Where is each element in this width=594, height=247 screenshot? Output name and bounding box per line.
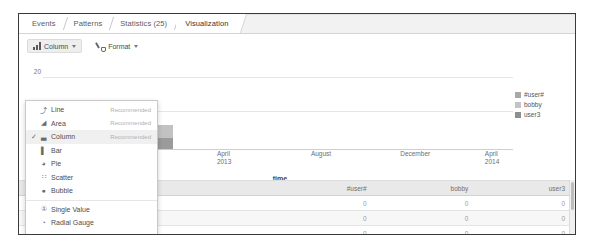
check-icon: ✓ [30,133,38,141]
scatter-plot-icon: ∷ [38,173,49,181]
radial-gauge-icon: ◔ [38,219,49,226]
menu-item-label: Area [49,120,110,127]
tab-visualization[interactable]: Visualization [176,14,237,33]
chevron-down-icon [72,45,76,48]
single-value-icon: ① [38,205,49,213]
scrollbar-thumb[interactable] [571,182,574,210]
legend-swatch [515,112,521,118]
menu-item-pie[interactable]: ◕ Pie [26,157,157,171]
chevron-down-icon [134,45,138,48]
menu-item-note: Recommended [110,134,151,140]
legend-item[interactable]: bobby [515,101,567,108]
cell-bobby: 0 [377,211,479,226]
menu-item-note: Recommended [110,120,151,126]
tab-events[interactable]: Events [23,14,65,33]
cell-user: 0 [275,226,377,236]
tab-visualization-label: Visualization [185,19,228,28]
menu-item-area[interactable]: ◢ Area Recommended [26,117,157,131]
area-chart-icon: ◢ [38,119,49,127]
tab-patterns[interactable]: Patterns [65,14,112,33]
menu-item-scatter[interactable]: ∷ Scatter [26,171,157,185]
menu-item-radial-gauge[interactable]: ◔ Radial Gauge [26,216,157,230]
menu-item-note: Recommended [110,107,151,113]
visualization-panel: Events Patterns Statistics (25) Visualiz… [18,13,576,235]
legend-item[interactable]: #user# [515,91,567,98]
menu-item-label: Scatter [49,174,151,181]
menu-item-label: Radial Gauge [49,219,151,226]
menu-item-label: Line [49,106,110,113]
x-tick-label: August [311,150,331,158]
menu-item-label: Column [49,133,110,140]
chart-legend: #user# bobby user3 [515,91,567,121]
cell-user: 0 [275,196,377,211]
legend-label: #user# [524,91,544,98]
tab-patterns-label: Patterns [74,19,103,28]
menu-item-label: Single Value [49,206,151,213]
format-label: Format [108,43,130,50]
chart-type-menu: ⤴ Line Recommended ◢ Area Recommended ✓ … [25,100,158,235]
cell-bobby: 0 [377,196,479,211]
tab-statistics[interactable]: Statistics (25) [111,14,176,33]
column-chart-icon [33,42,41,50]
y-tick-label: 20 [34,68,41,75]
menu-item-label: Bubble [49,187,151,194]
pie-chart-icon: ◕ [38,160,49,167]
menu-item-column[interactable]: ✓ ▃ Column Recommended [26,130,157,144]
bubble-chart-icon: ● [38,187,49,194]
x-tick-label: December [400,150,430,158]
menu-item-bar[interactable]: ▌ Bar [26,144,157,158]
column-header-user[interactable]: #user# [275,181,377,196]
menu-item-label: Pie [49,160,151,167]
menu-item-bubble[interactable]: ● Bubble [26,184,157,198]
format-button[interactable]: Format [92,40,143,52]
legend-item[interactable]: user3 [515,111,567,118]
column-header-bobby[interactable]: bobby [377,181,479,196]
filler-gauge-icon: ↕ [38,233,49,235]
x-tick-label: April 2013 [217,150,231,166]
tab-statistics-label: Statistics (25) [120,19,167,28]
cell-user: 0 [275,211,377,226]
legend-swatch [515,92,521,98]
tab-events-label: Events [32,19,56,28]
menu-divider [26,200,157,201]
x-tick-label: April 2014 [485,150,499,166]
bar-chart-icon: ▌ [38,147,49,154]
vertical-scrollbar[interactable] [569,180,575,235]
column-chart-icon: ▃ [38,133,49,141]
gridline [43,77,513,78]
menu-item-label: Bar [49,147,151,154]
cell-user3: 0 [478,196,575,211]
visualization-body: 20 10 December April 2013 [19,58,575,235]
legend-label: user3 [524,111,540,118]
paintbrush-icon [97,42,105,50]
tab-strip: Events Patterns Statistics (25) Visualiz… [19,14,575,34]
cell-bobby: 0 [377,226,479,236]
legend-swatch [515,102,521,108]
chart-type-label: Column [44,43,68,50]
menu-item-line[interactable]: ⤴ Line Recommended [26,103,157,117]
cell-user3: 0 [478,226,575,236]
legend-label: bobby [524,101,542,108]
menu-item-label: Filler Gauge [49,233,151,235]
menu-item-single-value[interactable]: ① Single Value [26,203,157,217]
line-chart-icon: ⤴ [38,105,49,115]
chart-type-button[interactable]: Column [27,39,82,53]
tab-strip-filler [240,14,576,33]
column-header-user3[interactable]: user3 [478,181,575,196]
menu-item-filler-gauge[interactable]: ↕ Filler Gauge [26,230,157,236]
cell-user3: 0 [478,211,575,226]
visualization-toolbar: Column Format [19,34,575,58]
